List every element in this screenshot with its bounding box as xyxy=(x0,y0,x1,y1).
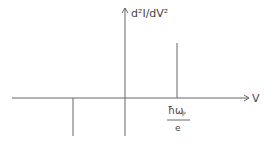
tick-subscript: P xyxy=(182,110,186,117)
diagram-canvas: d²I/dV² V ħω P e xyxy=(0,0,273,147)
x-axis-label: V xyxy=(252,92,260,105)
y-axis-label: d²I/dV² xyxy=(131,7,168,20)
tick-denominator: e xyxy=(175,123,181,133)
